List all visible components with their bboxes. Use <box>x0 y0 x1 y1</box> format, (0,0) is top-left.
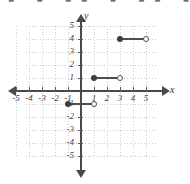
x-axis-tick <box>146 87 147 92</box>
grid-line-horizontal <box>26 143 156 144</box>
open-endpoint-dot <box>143 36 149 42</box>
y-axis-tick <box>78 26 83 27</box>
x-axis-tick-label: -4 <box>22 94 36 103</box>
coordinate-plane: x y -5-4-3-2-11234554321-1-2-3-4-5 <box>0 8 190 184</box>
x-axis-tick-label: 2 <box>100 94 114 103</box>
graph-figure: ■ ■ ■■ ■ ■■ ■ x y -5-4-3-2-11234554321-1… <box>0 0 190 184</box>
y-axis-tick-label: -3 <box>60 125 74 134</box>
x-axis-tick <box>16 87 17 92</box>
x-axis-tick <box>107 87 108 92</box>
x-axis-tick-label: 4 <box>126 94 140 103</box>
y-axis-tick-label: 3 <box>60 47 74 56</box>
y-axis-line <box>80 20 82 174</box>
y-axis-tick <box>78 130 83 131</box>
y-axis-tick-label: -5 <box>60 151 74 160</box>
x-axis-tick-label: 3 <box>113 94 127 103</box>
x-axis-tick <box>120 87 121 92</box>
y-axis-tick <box>78 39 83 40</box>
x-axis-tick <box>68 87 69 92</box>
x-axis-tick <box>29 87 30 92</box>
x-axis-tick <box>94 87 95 92</box>
y-axis-tick-label: 5 <box>60 21 74 30</box>
grid-line-horizontal <box>26 52 156 53</box>
grid-line-horizontal <box>26 156 156 157</box>
y-axis-tick <box>78 78 83 79</box>
x-axis-tick-label: -3 <box>35 94 49 103</box>
open-endpoint-dot <box>91 101 97 107</box>
y-axis-tick <box>78 117 83 118</box>
y-axis-tick-label: -4 <box>60 138 74 147</box>
grid-line-horizontal <box>26 26 156 27</box>
grid-line-horizontal <box>26 65 156 66</box>
grid-line-horizontal <box>26 130 156 131</box>
x-axis-label: x <box>170 84 174 95</box>
y-axis-tick <box>78 65 83 66</box>
closed-endpoint-dot <box>91 75 97 81</box>
closed-endpoint-dot <box>65 101 71 107</box>
y-axis-tick-label: 4 <box>60 34 74 43</box>
x-axis-tick <box>55 87 56 92</box>
y-axis-arrow-down-icon <box>76 170 86 178</box>
y-axis-tick <box>78 156 83 157</box>
grid-line-horizontal <box>26 117 156 118</box>
y-axis-tick <box>78 143 83 144</box>
x-axis-tick <box>133 87 134 92</box>
open-endpoint-dot <box>117 75 123 81</box>
x-axis-arrow-right-icon <box>162 86 170 96</box>
y-axis-tick <box>78 52 83 53</box>
closed-endpoint-dot <box>117 36 123 42</box>
y-axis-tick-label: 1 <box>60 73 74 82</box>
x-axis-tick-label: -5 <box>9 94 23 103</box>
x-axis-line <box>14 90 166 92</box>
x-axis-tick-label: 5 <box>139 94 153 103</box>
y-axis-tick-label: 2 <box>60 60 74 69</box>
clipped-header-label: ■ ■ ■■ ■ ■■ ■ <box>8 0 190 4</box>
x-axis-tick <box>42 87 43 92</box>
y-axis-label: y <box>84 10 88 21</box>
y-axis-tick-label: -2 <box>60 112 74 121</box>
